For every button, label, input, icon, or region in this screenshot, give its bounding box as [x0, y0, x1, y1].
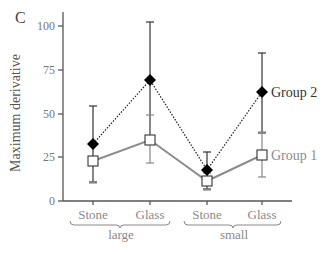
- group-label-large: large: [108, 227, 134, 242]
- square-marker: [202, 176, 212, 186]
- y-tick-labels: 100 75 50 25 0: [37, 19, 55, 208]
- panel-label: C: [15, 9, 26, 26]
- y-axis: [58, 12, 63, 201]
- group2-error-bars: [89, 22, 266, 189]
- y-axis-label: Maximum derivative: [8, 54, 23, 172]
- diamond-marker: [201, 164, 213, 176]
- legend-group2: Group 2: [271, 85, 317, 100]
- xcat-stone-small: Stone: [192, 207, 222, 222]
- ytick-75: 75: [43, 63, 55, 77]
- ytick-25: 25: [43, 150, 55, 164]
- chart-container: C Maximum derivative 100 75 50 25 0: [0, 0, 331, 254]
- group2-line: [93, 80, 262, 170]
- xcat-stone-large: Stone: [78, 207, 108, 222]
- diamond-marker: [144, 74, 156, 86]
- xcat-glass-small: Glass: [248, 207, 277, 222]
- ytick-100: 100: [37, 19, 55, 33]
- square-marker: [88, 156, 98, 166]
- group-label-small: small: [220, 227, 249, 242]
- diamond-marker: [87, 138, 99, 150]
- x-axis: [63, 201, 292, 205]
- ytick-0: 0: [49, 194, 55, 208]
- square-marker: [145, 135, 155, 145]
- chart-svg: C Maximum derivative 100 75 50 25 0: [0, 0, 331, 254]
- group-braces: [70, 221, 281, 228]
- diamond-marker: [256, 86, 268, 98]
- x-category-labels: Stone Glass Stone Glass: [78, 207, 276, 222]
- group1-line: [93, 140, 262, 181]
- xcat-glass-large: Glass: [136, 207, 165, 222]
- square-marker: [257, 150, 267, 160]
- legend-group1: Group 1: [271, 148, 317, 163]
- ytick-50: 50: [43, 107, 55, 121]
